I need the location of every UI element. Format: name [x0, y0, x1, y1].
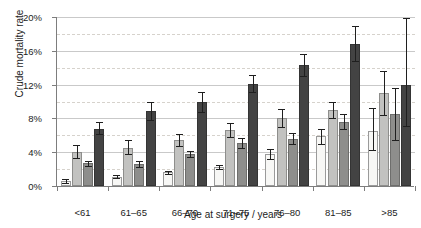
gridline-minor	[57, 34, 415, 35]
error-bar-cap-lower	[267, 159, 274, 160]
bar	[288, 139, 298, 186]
error-bar-cap-lower	[165, 174, 172, 175]
error-bar-cap-upper	[147, 102, 154, 103]
error-bar-cap-lower	[216, 169, 223, 170]
error-bar-cap-lower	[403, 126, 410, 127]
y-axis-tick-label: 12%	[2, 79, 42, 90]
bar	[237, 143, 247, 186]
error-bar	[99, 122, 100, 135]
error-bar-cap-lower	[187, 157, 194, 158]
error-bar-cap-upper	[267, 149, 274, 150]
error-bar	[128, 140, 129, 154]
y-axis-tick	[52, 152, 57, 153]
y-axis-tick	[52, 17, 57, 18]
error-bar-cap-upper	[198, 92, 205, 93]
gridline-minor	[57, 68, 415, 69]
error-bar	[373, 108, 374, 149]
error-bar-cap-lower	[176, 146, 183, 147]
x-axis-category-label: >85	[381, 207, 397, 218]
error-bar-cap-upper	[187, 151, 194, 152]
x-axis-line	[56, 186, 414, 187]
error-bar-cap-upper	[289, 133, 296, 134]
bar	[299, 65, 309, 186]
error-bar	[270, 149, 271, 159]
error-bar-cap-upper	[300, 54, 307, 55]
bar	[94, 129, 104, 186]
bar	[146, 111, 156, 186]
error-bar-cap-lower	[392, 140, 399, 141]
bar	[225, 130, 235, 186]
error-bar	[321, 129, 322, 144]
error-bar-cap-lower	[329, 118, 336, 119]
error-bar	[344, 114, 345, 129]
error-bar-cap-upper	[369, 108, 376, 109]
error-bar	[242, 138, 243, 148]
gridline-major	[57, 118, 415, 119]
gridline-major	[57, 51, 415, 52]
error-bar-cap-upper	[216, 165, 223, 166]
error-bar	[230, 123, 231, 137]
y-axis-tick	[52, 51, 57, 52]
error-bar-cap-lower	[227, 137, 234, 138]
x-axis-tick	[415, 186, 416, 191]
bar	[277, 118, 287, 186]
error-bar-cap-upper	[318, 129, 325, 130]
error-bar	[139, 161, 140, 168]
x-axis-category-label: 81–85	[325, 207, 351, 218]
bar	[185, 154, 195, 186]
error-bar	[77, 145, 78, 158]
error-bar-cap-upper	[392, 88, 399, 89]
error-bar-cap-lower	[238, 148, 245, 149]
error-bar	[304, 54, 305, 76]
error-bar-cap-upper	[380, 71, 387, 72]
x-axis-category-label: 71–75	[223, 207, 249, 218]
error-bar	[151, 102, 152, 121]
gridline-minor	[57, 135, 415, 136]
error-bar-cap-upper	[62, 179, 69, 180]
error-bar-cap-lower	[62, 183, 69, 184]
y-axis-tick	[52, 118, 57, 119]
error-bar-cap-lower	[147, 120, 154, 121]
error-bar-cap-lower	[113, 178, 120, 179]
error-bar-cap-lower	[85, 166, 92, 167]
error-bar-cap-upper	[352, 26, 359, 27]
error-bar-cap-lower	[278, 127, 285, 128]
y-axis-tick-label: 0%	[2, 181, 42, 192]
x-axis-category-label: 66–70	[172, 207, 198, 218]
error-bar-cap-upper	[340, 114, 347, 115]
error-bar-cap-lower	[249, 92, 256, 93]
gridline-major	[57, 85, 415, 86]
error-bar-cap-lower	[318, 144, 325, 145]
y-axis-tick-label: 20%	[2, 12, 42, 23]
error-bar-cap-upper	[176, 134, 183, 135]
error-bar-cap-upper	[113, 175, 120, 176]
error-bar-cap-lower	[289, 144, 296, 145]
error-bar-cap-lower	[300, 76, 307, 77]
y-axis-tick-label: 8%	[2, 113, 42, 124]
error-bar	[333, 102, 334, 119]
error-bar-cap-lower	[73, 158, 80, 159]
error-bar-cap-upper	[136, 161, 143, 162]
bar	[248, 84, 258, 186]
error-bar-cap-lower	[136, 167, 143, 168]
error-bar-cap-lower	[198, 112, 205, 113]
error-bar	[282, 109, 283, 127]
y-axis-tick-label: 16%	[2, 45, 42, 56]
x-axis-category-label: 76–80	[274, 207, 300, 218]
bar	[350, 44, 360, 186]
x-axis-category-label: <61	[75, 207, 91, 218]
bar	[197, 102, 207, 186]
error-bar-cap-upper	[249, 75, 256, 76]
error-bar	[293, 133, 294, 144]
error-bar-cap-upper	[238, 138, 245, 139]
error-bar-cap-upper	[329, 102, 336, 103]
gridline-major	[57, 17, 415, 18]
bar	[328, 110, 338, 186]
gridline-minor	[57, 102, 415, 103]
error-bar-cap-upper	[125, 140, 132, 141]
y-axis-tick-label: 4%	[2, 147, 42, 158]
error-bar	[395, 88, 396, 140]
plot-area: 0%4%8%12%16%20%<6161–6566–7071–7576–8081…	[56, 17, 414, 186]
y-axis-tick	[52, 85, 57, 86]
error-bar-cap-upper	[227, 123, 234, 124]
